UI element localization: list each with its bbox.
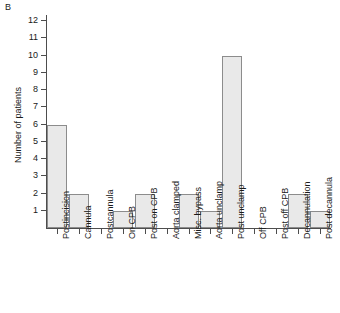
y-tick-mark [41, 20, 46, 21]
y-tick-mark [41, 89, 46, 90]
y-tick-label: 9 [18, 67, 38, 78]
x-tick-label: Aorta unclamp [214, 181, 224, 239]
x-tick-mark [57, 229, 58, 234]
y-tick-label: 8 [18, 84, 38, 95]
x-tick-mark [101, 229, 102, 234]
x-tick-mark [298, 229, 299, 234]
x-tick-label: Post decannula [324, 177, 334, 239]
y-tick-mark [41, 106, 46, 107]
x-tick-label: Aorta clamped [171, 181, 181, 239]
y-tick-label: 12 [18, 15, 38, 26]
y-tick-label: 7 [18, 101, 38, 112]
x-tick-mark [210, 229, 211, 234]
x-tick-mark [189, 229, 190, 234]
x-tick-label: Postincision [61, 191, 71, 239]
y-tick-mark [41, 37, 46, 38]
y-tick-mark [41, 193, 46, 194]
x-tick-label: Off CPB [258, 206, 268, 239]
y-tick-mark [41, 141, 46, 142]
y-tick-label: 2 [18, 188, 38, 199]
y-tick-label: 6 [18, 119, 38, 130]
bar-chart: B Number of patients 123456789101112 Pos… [0, 0, 340, 313]
y-tick-label: 1 [18, 205, 38, 216]
x-tick-label: Post on CPB [149, 187, 159, 239]
x-tick-label: On CPB [127, 206, 137, 239]
x-tick-label: Postcannula [105, 189, 115, 239]
x-tick-mark [320, 229, 321, 234]
y-tick-mark [41, 124, 46, 125]
x-tick-mark [276, 229, 277, 234]
panel-label: B [5, 2, 11, 12]
y-tick-label: 11 [18, 32, 38, 43]
y-tick-mark [41, 210, 46, 211]
y-tick-label: 10 [18, 50, 38, 61]
y-tick-mark [41, 175, 46, 176]
y-tick-label: 5 [18, 136, 38, 147]
x-tick-label: Cannula [83, 205, 93, 239]
y-tick-mark [41, 158, 46, 159]
x-tick-mark [232, 229, 233, 234]
y-tick-mark [41, 55, 46, 56]
y-tick-mark [41, 72, 46, 73]
x-tick-label: Misc. bypass [193, 187, 203, 239]
x-tick-mark [123, 229, 124, 234]
y-tick-label: 3 [18, 170, 38, 181]
x-tick-label: Post off CPB [280, 188, 290, 239]
x-tick-mark [79, 229, 80, 234]
y-tick-label: 4 [18, 153, 38, 164]
x-tick-mark [167, 229, 168, 234]
x-tick-label: Post unclamp [236, 184, 246, 239]
x-tick-mark [145, 229, 146, 234]
x-tick-mark [254, 229, 255, 234]
x-tick-label: Decannulation [302, 181, 312, 239]
